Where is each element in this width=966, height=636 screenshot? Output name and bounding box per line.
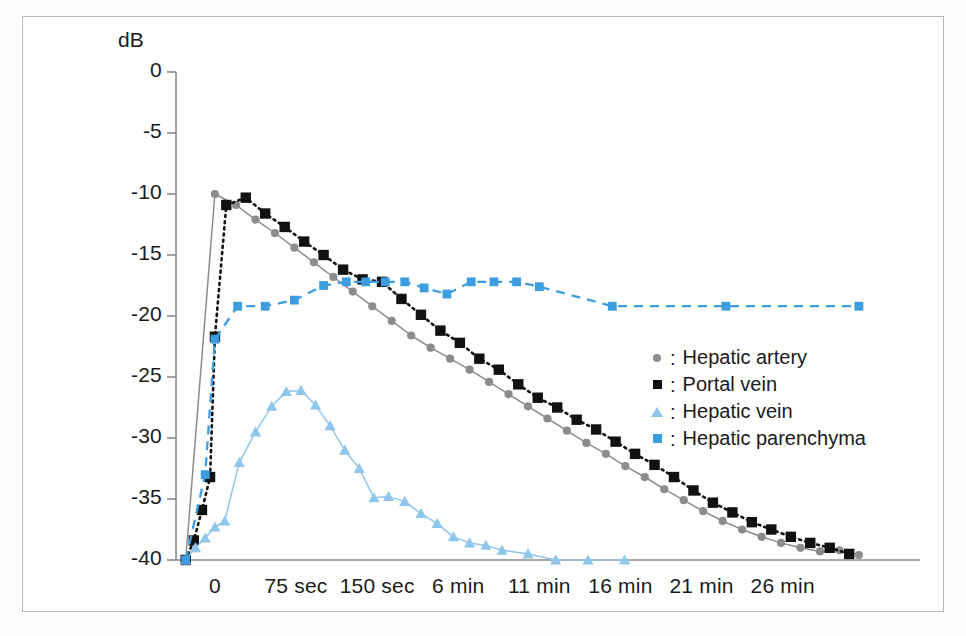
data-point xyxy=(219,515,230,525)
legend-label: Portal vein xyxy=(683,373,778,396)
data-point xyxy=(442,290,451,299)
data-point xyxy=(383,491,394,501)
data-point xyxy=(310,258,318,266)
data-point xyxy=(368,302,376,310)
data-point xyxy=(290,296,299,305)
y-axis-tick-label: 0 xyxy=(92,58,162,82)
data-point xyxy=(504,390,512,398)
data-point xyxy=(777,539,785,547)
data-point xyxy=(342,277,351,286)
data-point xyxy=(349,288,357,296)
data-point xyxy=(608,302,617,311)
legend-label: Hepatic artery xyxy=(683,346,808,369)
data-point xyxy=(844,549,854,559)
data-point xyxy=(241,192,251,202)
data-point xyxy=(513,379,523,389)
data-point xyxy=(435,325,445,335)
data-point xyxy=(641,473,649,481)
data-point xyxy=(591,424,601,434)
legend-item: :Portal vein xyxy=(646,371,866,398)
y-axis-tick-label: -40 xyxy=(92,546,162,570)
data-point xyxy=(571,415,581,425)
data-point xyxy=(415,508,426,518)
data-point xyxy=(318,250,328,260)
data-point xyxy=(407,331,415,339)
legend-separator: : xyxy=(670,375,676,395)
legend-marker-triangle-lightblue-icon xyxy=(646,407,668,417)
data-point xyxy=(796,544,804,552)
data-point xyxy=(512,277,521,286)
data-point xyxy=(466,366,474,374)
data-point xyxy=(680,496,688,504)
legend-marker-square-black-icon xyxy=(646,380,668,389)
data-point xyxy=(721,302,730,311)
data-point xyxy=(552,402,562,412)
y-axis-tick-label: -35 xyxy=(92,485,162,509)
y-axis-ticks xyxy=(167,72,176,560)
data-point xyxy=(464,537,475,547)
data-point xyxy=(485,378,493,386)
data-point xyxy=(455,338,465,348)
data-point xyxy=(260,208,270,218)
legend-item: :Hepatic artery xyxy=(646,344,866,371)
data-point xyxy=(805,538,815,548)
data-point xyxy=(181,556,190,565)
y-axis-tick-label: -10 xyxy=(92,180,162,204)
legend-separator: : xyxy=(670,402,676,422)
data-point xyxy=(271,229,279,237)
data-point xyxy=(727,507,737,517)
data-point xyxy=(319,281,328,290)
data-point xyxy=(209,522,220,532)
data-point xyxy=(420,284,429,293)
data-point xyxy=(855,551,863,559)
data-point xyxy=(261,302,270,311)
axes xyxy=(176,72,920,560)
data-point xyxy=(535,282,544,291)
data-point xyxy=(339,445,350,455)
data-point xyxy=(211,190,219,198)
data-point xyxy=(688,485,698,495)
data-point xyxy=(699,507,707,515)
legend-separator: : xyxy=(670,348,676,368)
data-point xyxy=(221,200,231,210)
data-point xyxy=(295,385,306,395)
y-axis-tick-label: -25 xyxy=(92,363,162,387)
data-point xyxy=(446,355,454,363)
data-point xyxy=(361,277,370,286)
data-point xyxy=(467,277,476,286)
data-point xyxy=(719,517,727,525)
y-axis-tick-label: -5 xyxy=(92,119,162,143)
data-point xyxy=(211,335,220,344)
data-point xyxy=(825,543,835,553)
data-point xyxy=(432,518,443,528)
data-point xyxy=(201,470,210,479)
data-point xyxy=(757,533,765,541)
data-point xyxy=(747,517,757,527)
legend-marker-square-blue-icon xyxy=(646,434,668,443)
data-point xyxy=(490,277,499,286)
data-point xyxy=(388,317,396,325)
data-point xyxy=(338,264,348,274)
legend-item: :Hepatic vein xyxy=(646,398,866,425)
legend-separator: : xyxy=(670,429,676,449)
data-point xyxy=(234,457,245,467)
data-point xyxy=(325,420,336,430)
data-point xyxy=(669,472,679,482)
data-point xyxy=(766,524,776,534)
data-point xyxy=(400,277,409,286)
data-point xyxy=(610,436,620,446)
legend-label: Hepatic parenchyma xyxy=(683,427,866,450)
data-point xyxy=(279,222,289,232)
data-point xyxy=(543,414,551,422)
data-point xyxy=(786,532,796,542)
data-point xyxy=(250,426,261,436)
data-point xyxy=(299,236,309,246)
series-hepatic-vein xyxy=(180,385,630,565)
chart-legend: :Hepatic artery:Portal vein:Hepatic vein… xyxy=(646,344,866,452)
data-point xyxy=(649,460,659,470)
figure-container: dB :Hepatic artery:Portal vein:Hepatic v… xyxy=(0,0,966,636)
data-point xyxy=(329,273,337,281)
y-axis-tick-label: -15 xyxy=(92,241,162,265)
data-point xyxy=(621,462,629,470)
data-point xyxy=(427,344,435,352)
